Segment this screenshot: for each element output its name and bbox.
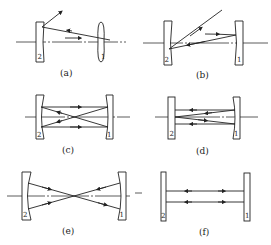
panel-f: 2 1 (f) <box>135 172 250 237</box>
mirror-label-2: 2 <box>37 131 41 139</box>
optical-resonator-diagram: 2 1 (a) 2 1 (b) 2 1 (c) <box>0 0 271 245</box>
panel-d: 2 1 (d) <box>155 97 258 156</box>
mirror-label-2: 2 <box>170 130 174 138</box>
panel-b: 2 1 (b) <box>143 10 268 80</box>
mirror-label-1: 1 <box>120 211 124 219</box>
panel-c: 2 1 (c) <box>25 95 130 155</box>
mirror-label-2: 2 <box>23 211 27 219</box>
mirror-label-1: 1 <box>245 212 249 220</box>
mirror-label-1: 1 <box>107 131 111 139</box>
caption-d: (d) <box>196 146 209 156</box>
caption-c: (c) <box>62 145 74 155</box>
mirror-label-2: 2 <box>161 212 165 220</box>
caption-a: (a) <box>60 68 72 78</box>
caption-e: (e) <box>62 226 74 236</box>
mirror-label-2: 2 <box>165 56 169 64</box>
panel-e: 2 1 (e) <box>7 172 130 236</box>
panel-a: 2 1 (a) <box>16 12 126 78</box>
caption-b: (b) <box>196 70 209 80</box>
mirror-label-1: 1 <box>234 130 238 138</box>
mirror-label-1: 1 <box>101 53 105 61</box>
mirror-label-1: 1 <box>237 56 241 64</box>
mirror-label-2: 2 <box>38 53 42 61</box>
caption-f: (f) <box>199 227 209 237</box>
